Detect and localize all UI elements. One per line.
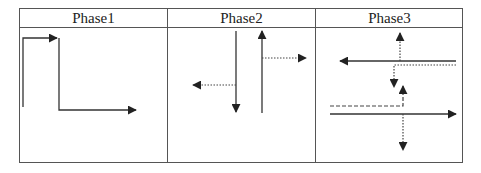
phase3-dotted-left-down <box>394 65 456 87</box>
phase3-dashed-right-up <box>330 86 403 106</box>
phase2-movements <box>193 31 306 113</box>
phase1-arrow-down-right <box>59 38 136 110</box>
phase-diagrams <box>0 0 481 173</box>
phase1-arrow-up-right <box>23 38 57 107</box>
phase1-movements <box>23 38 136 110</box>
phase3-movements <box>330 33 456 150</box>
